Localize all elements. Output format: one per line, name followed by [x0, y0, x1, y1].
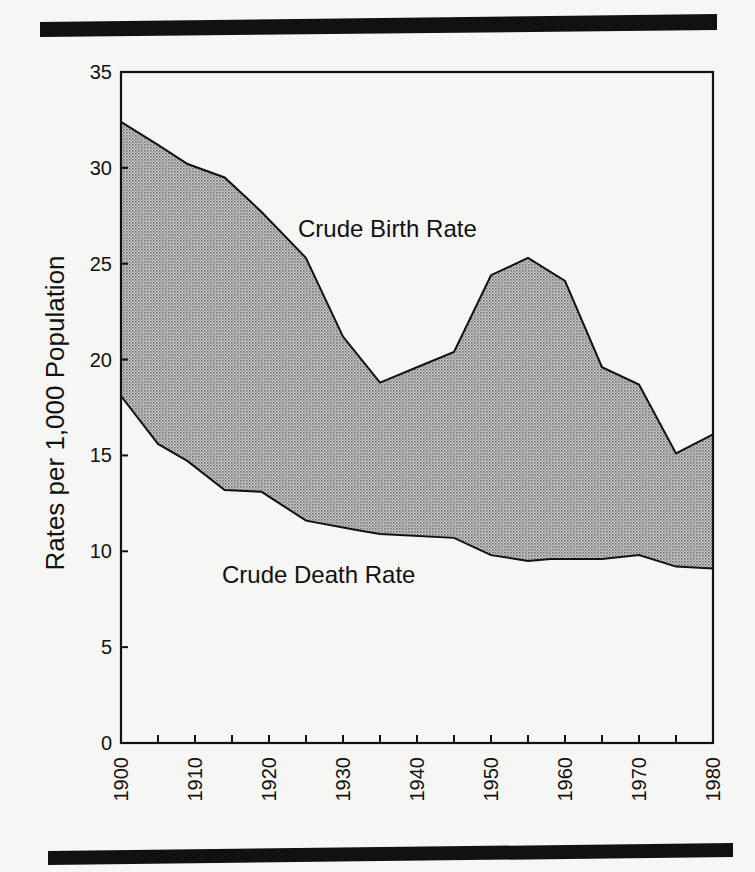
birth-death-gap-area — [121, 122, 713, 569]
y-tick-label: 0 — [101, 732, 112, 754]
death-rate-label: Crude Death Rate — [222, 561, 415, 588]
chart: 05101520253035 1900191019201930194019501… — [0, 0, 755, 872]
y-tick-label: 15 — [90, 444, 112, 466]
y-tick-label: 10 — [90, 540, 112, 562]
x-tick-label: 1980 — [702, 757, 724, 802]
y-tick-label: 35 — [90, 61, 112, 83]
x-tick-label: 1930 — [332, 757, 354, 802]
y-tick-label: 5 — [101, 636, 112, 658]
y-axis-title: Rates per 1,000 Population — [40, 255, 70, 570]
x-tick-label: 1940 — [406, 757, 428, 802]
y-tick-label: 30 — [90, 157, 112, 179]
birth-rate-label: Crude Birth Rate — [298, 215, 477, 242]
x-tick-label: 1920 — [258, 757, 280, 802]
x-tick-label: 1910 — [184, 757, 206, 802]
x-axis: 190019101920193019401950196019701980 — [110, 735, 724, 802]
x-tick-label: 1900 — [110, 757, 132, 802]
x-tick-label: 1970 — [628, 757, 650, 802]
top-rule — [40, 14, 717, 37]
x-tick-label: 1950 — [480, 757, 502, 802]
x-tick-label: 1960 — [554, 757, 576, 802]
bottom-rule — [48, 843, 733, 865]
y-tick-label: 25 — [90, 253, 112, 275]
y-tick-label: 20 — [90, 349, 112, 371]
plot-area: 05101520253035 1900191019201930194019501… — [90, 61, 724, 802]
